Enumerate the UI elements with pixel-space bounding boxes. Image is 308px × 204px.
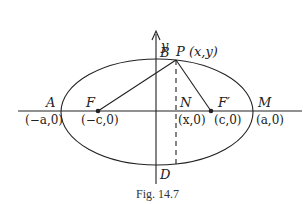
label-P: P (x,y)	[175, 44, 218, 59]
label-F-prime: F′	[217, 95, 230, 110]
label-A: A	[45, 95, 55, 110]
line-F-to-P	[98, 60, 176, 111]
coord-A: (−a,0)	[25, 113, 63, 127]
ellipse-curve	[61, 59, 253, 165]
label-M: M	[257, 95, 272, 110]
coord-N: (x,0)	[178, 113, 206, 127]
label-B: B	[159, 45, 170, 60]
label-D: D	[159, 167, 171, 182]
coord-M: (a,0)	[256, 113, 284, 127]
label-F: F	[85, 95, 96, 110]
ellipse-diagram: y B P (x,y) A F N F′ M (−a,0) (−c,0) (x,…	[0, 0, 308, 204]
label-N: N	[179, 95, 192, 110]
coord-F: (−c,0)	[81, 113, 119, 127]
focus-point-F-prime	[209, 109, 214, 114]
coord-F-prime: (c,0)	[214, 113, 242, 127]
figure-caption: Fig. 14.7	[136, 187, 179, 201]
